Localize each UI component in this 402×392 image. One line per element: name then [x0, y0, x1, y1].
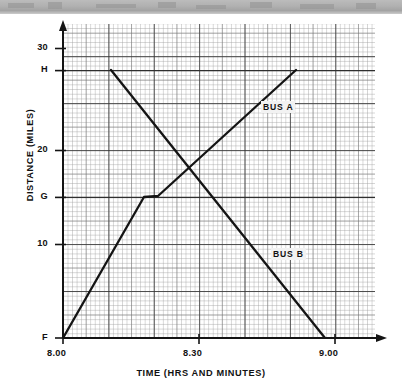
x-tick-label-900: 9.00 [319, 348, 338, 358]
x-tick-label-830: 8.30 [183, 348, 202, 358]
chart-page: DISTANCE (MILES) 30 H 20 G 10 F 8.00 8.3… [0, 0, 402, 392]
y-tick-label-20: 20 [22, 144, 48, 154]
y-tick-label-10: 10 [22, 238, 48, 248]
y-tick-label-H: H [22, 64, 48, 74]
series-label-bus-b: BUS B [271, 248, 306, 260]
y-tick-label-G: G [22, 191, 48, 201]
x-tick-label-800: 8.00 [47, 348, 66, 358]
y-axis-title: DISTANCE (MILES) [25, 85, 35, 225]
series-label-bus-a: BUS A [261, 101, 295, 113]
graph-plot-area [0, 0, 402, 392]
x-axis-title: TIME (HRS AND MINUTES) [0, 368, 402, 378]
y-tick-label-F: F [22, 332, 48, 342]
y-tick-label-30: 30 [22, 42, 48, 52]
